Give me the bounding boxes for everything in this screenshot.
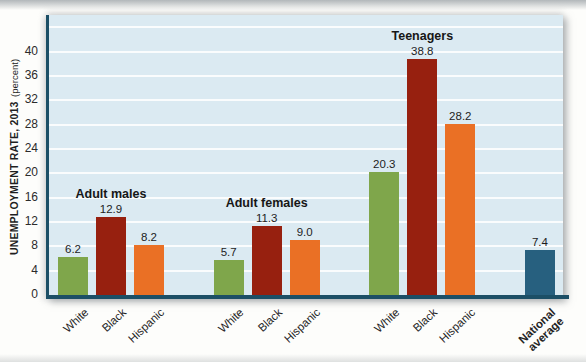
y-axis-ticks: 0481216202428323640: [0, 0, 38, 362]
y-tick-12: 12: [0, 214, 38, 229]
bar-adult-females-hispanic: 9.0Hispanic: [290, 240, 320, 295]
y-tick-28: 28: [0, 117, 38, 132]
bar-value-label: 8.2: [141, 231, 157, 243]
bar-group-adult-males: 6.2White12.9Black8.2HispanicAdult males: [58, 15, 164, 295]
x-axis-category-label: Black: [255, 306, 284, 334]
page-bottom-shadow: [0, 354, 586, 362]
y-tick-0: 0: [0, 287, 38, 302]
x-axis-category-label: White: [372, 306, 402, 335]
plot-area: 6.2White12.9Black8.2HispanicAdult males5…: [46, 15, 563, 299]
bar-teenagers-white: 20.3White: [369, 172, 399, 295]
y-tick-20: 20: [0, 165, 38, 180]
page-top-shadow: [0, 0, 586, 10]
bar-national-average-national-average: 7.4National average: [525, 250, 555, 295]
bar-value-label: 12.9: [100, 203, 122, 215]
bar-adult-females-black: 11.3Black: [252, 226, 282, 295]
y-tick-16: 16: [0, 190, 38, 205]
y-tick-4: 4: [0, 263, 38, 278]
bar-value-label: 7.4: [532, 236, 548, 248]
y-tick-36: 36: [0, 68, 38, 83]
bar-value-label: 20.3: [373, 158, 395, 170]
y-tick-40: 40: [0, 44, 38, 59]
bar-teenagers-black: 38.8Black: [407, 59, 437, 295]
x-axis-category-label: White: [216, 306, 246, 335]
y-tick-32: 32: [0, 92, 38, 107]
bar-value-label: 28.2: [449, 110, 471, 122]
bar-value-label: 6.2: [65, 243, 81, 255]
group-title-teenagers: Teenagers: [392, 29, 454, 43]
bar-value-label: 11.3: [256, 212, 278, 224]
bar-teenagers-hispanic: 28.2Hispanic: [445, 124, 475, 295]
bar-group-teenagers: 20.3White38.8Black28.2HispanicTeenagers: [369, 15, 475, 295]
bar-adult-females-white: 5.7White: [214, 260, 244, 295]
bar-groups-row: 6.2White12.9Black8.2HispanicAdult males5…: [49, 15, 563, 295]
x-axis-category-label: Hispanic: [437, 306, 477, 345]
x-axis-category-label: Black: [411, 306, 440, 334]
bar-group-adult-females: 5.7White11.3Black9.0HispanicAdult female…: [214, 15, 320, 295]
bar-value-label: 9.0: [297, 226, 313, 238]
bar-group-national-average: 7.4National average: [525, 15, 555, 295]
x-axis-category-label: Hispanic: [281, 306, 321, 345]
x-axis-category-label: National average: [516, 306, 566, 355]
x-axis-category-label: Hispanic: [126, 306, 166, 345]
bar-adult-males-black: 12.9Black: [96, 217, 126, 295]
bar-adult-males-hispanic: 8.2Hispanic: [134, 245, 164, 295]
y-tick-24: 24: [0, 141, 38, 156]
group-title-adult-males: Adult males: [76, 187, 147, 201]
group-title-adult-females: Adult females: [226, 196, 308, 210]
bar-adult-males-white: 6.2White: [58, 257, 88, 295]
x-axis-category-label: Black: [99, 306, 128, 334]
figure: UNEMPLOYMENT RATE, 2013 (percent) 048121…: [0, 0, 586, 362]
y-tick-8: 8: [0, 238, 38, 253]
bar-value-label: 38.8: [411, 45, 433, 57]
bar-value-label: 5.7: [221, 246, 237, 258]
x-axis-category-label: White: [60, 306, 90, 335]
